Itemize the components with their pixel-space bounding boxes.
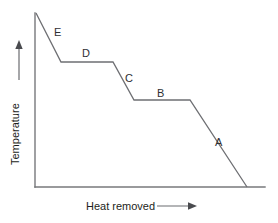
- y-axis-title: Temperature: [9, 103, 21, 165]
- segment-label-a: A: [215, 136, 223, 148]
- segment-label-c: C: [125, 72, 133, 84]
- chart-canvas: E D C B A Temperature Heat removed: [0, 0, 278, 223]
- cooling-curve-path: [36, 13, 247, 187]
- segment-label-b: B: [157, 87, 165, 99]
- segment-label-e: E: [54, 26, 62, 38]
- up-arrow-icon: [15, 40, 22, 49]
- cooling-curve-figure: E D C B A Temperature Heat removed: [0, 0, 278, 223]
- segment-label-d: D: [82, 47, 90, 59]
- right-arrow-icon: [188, 202, 197, 209]
- x-axis-title: Heat removed: [86, 200, 155, 212]
